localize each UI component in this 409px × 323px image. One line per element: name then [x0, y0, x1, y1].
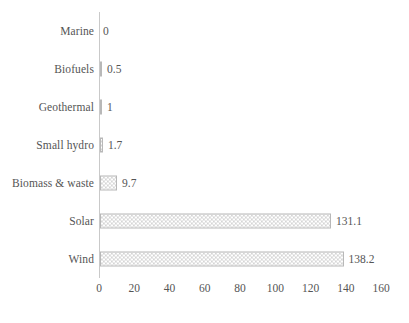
- x-axis: 020406080100120140160: [0, 278, 409, 302]
- bar: [100, 214, 331, 229]
- bar-container: 1: [100, 100, 113, 115]
- bar-container: 1.7: [100, 138, 122, 153]
- category-label: Marine: [60, 25, 94, 37]
- bar-row: Biofuels0.5: [0, 50, 409, 88]
- bar: [100, 62, 102, 77]
- x-tick-label: 20: [129, 282, 141, 294]
- category-label: Small hydro: [36, 139, 94, 151]
- category-label: Geothermal: [39, 101, 94, 113]
- category-label: Biofuels: [54, 63, 94, 75]
- bar-container: 131.1: [100, 214, 362, 229]
- bar-container: 9.7: [100, 176, 136, 191]
- category-label: Solar: [69, 215, 94, 227]
- bar-value-label: 9.7: [122, 177, 136, 189]
- x-tick-label: 80: [234, 282, 246, 294]
- bar-value-label: 0.5: [107, 63, 121, 75]
- bar-value-label: 1.7: [108, 139, 122, 151]
- bar: [100, 138, 103, 153]
- category-label: Biomass & waste: [12, 177, 94, 189]
- bar-row: Small hydro1.7: [0, 126, 409, 164]
- bar-value-label: 0: [103, 25, 109, 37]
- bar-rows: Marine0Biofuels0.5Geothermal1Small hydro…: [0, 12, 409, 278]
- bar-row: Solar131.1: [0, 202, 409, 240]
- bar: [100, 252, 344, 267]
- bar-chart: Marine0Biofuels0.5Geothermal1Small hydro…: [0, 0, 409, 323]
- bar: [100, 176, 117, 191]
- bar-container: 0.5: [100, 62, 121, 77]
- bar-row: Wind138.2: [0, 240, 409, 278]
- bar: [100, 100, 102, 115]
- x-tick-label: 140: [337, 282, 354, 294]
- category-label: Wind: [69, 253, 95, 265]
- x-tick-label: 100: [267, 282, 284, 294]
- bar-value-label: 1: [107, 101, 113, 113]
- x-tick-label: 120: [302, 282, 319, 294]
- bar-row: Geothermal1: [0, 88, 409, 126]
- bar-row: Marine0: [0, 12, 409, 50]
- x-tick-label: 40: [164, 282, 176, 294]
- bar-row: Biomass & waste9.7: [0, 164, 409, 202]
- bar-container: 0: [100, 24, 109, 39]
- bar-container: 138.2: [100, 252, 374, 267]
- x-tick-label: 60: [199, 282, 211, 294]
- bar-value-label: 131.1: [336, 215, 362, 227]
- x-tick-label: 0: [96, 282, 102, 294]
- bar-value-label: 138.2: [349, 253, 375, 265]
- x-tick-label: 160: [372, 282, 389, 294]
